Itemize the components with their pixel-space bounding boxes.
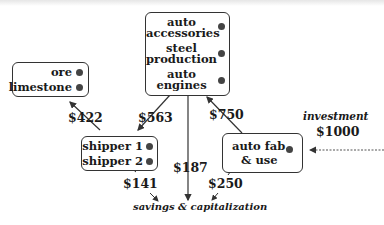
flow-422: $422 (68, 110, 103, 125)
auto-fab-line1: auto fab. (232, 141, 289, 152)
node-ore: ore (51, 67, 72, 78)
shipper-2-dot-icon (146, 158, 153, 165)
auto-fab-line2: & use (241, 155, 278, 166)
auto-fab-box: auto fab. & use (222, 133, 303, 173)
limestone-dot-icon (76, 84, 83, 91)
shipper-1-dot-icon (146, 143, 153, 150)
flow-250: $250 (208, 176, 243, 191)
auto-fab-dot-icon (286, 146, 293, 153)
ore-dot-icon (76, 69, 83, 76)
flow-563: $563 (138, 110, 173, 125)
auto-accessories-dot-icon (218, 23, 225, 30)
steel-production-dot-icon (218, 50, 225, 57)
auto-accessories-line2: accessories (146, 28, 217, 39)
flow-750: $750 (209, 107, 244, 122)
investment-label: investment (303, 110, 368, 122)
auto-engines-dot-icon (218, 77, 225, 84)
flow-141: $141 (123, 176, 158, 191)
node-shipper-1: shipper 1 (82, 141, 143, 152)
auto-engines-line2: engines (146, 80, 217, 91)
shippers-box: shipper 1 shipper 2 (81, 136, 158, 171)
auto-industry-box: auto accessories steel production auto e… (145, 12, 230, 96)
steel-production-line2: production (146, 54, 217, 65)
flow-187: $187 (173, 160, 208, 175)
savings-label: savings & capitalization (133, 201, 267, 212)
node-limestone: limestone (9, 82, 72, 93)
investment-amount: $1000 (316, 124, 360, 139)
raw-materials-box: ore limestone (12, 62, 89, 97)
node-shipper-2: shipper 2 (82, 156, 143, 167)
